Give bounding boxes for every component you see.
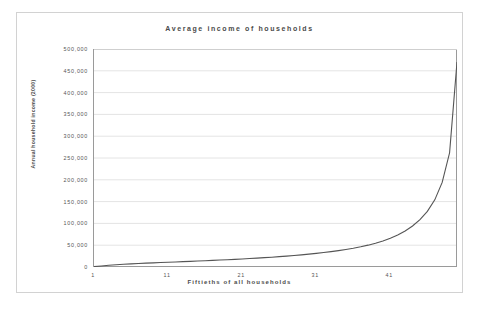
x-axis-title: Fiftieths of all households xyxy=(17,279,462,285)
x-tick-label: 1 xyxy=(91,272,95,278)
x-axis-tick-labels: 111213141 xyxy=(17,13,464,294)
chart-frame: Average income of households Annual hous… xyxy=(16,12,463,293)
x-tick-label: 31 xyxy=(312,272,319,278)
x-tick-label: 11 xyxy=(164,272,171,278)
x-tick-label: 41 xyxy=(386,272,393,278)
x-tick-label: 21 xyxy=(237,272,244,278)
